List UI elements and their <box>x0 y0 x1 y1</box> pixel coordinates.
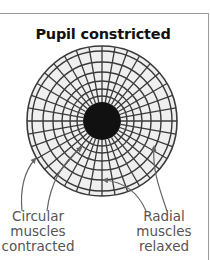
label-line: muscles <box>0 224 76 239</box>
pupil <box>83 102 121 140</box>
label-line: relaxed <box>128 239 200 254</box>
label-line: contracted <box>0 239 76 254</box>
label-line: muscles <box>128 224 200 239</box>
label-line: Circular <box>0 209 76 224</box>
label-radial-muscles: Radial muscles relaxed <box>128 209 200 254</box>
label-line: Radial <box>128 209 200 224</box>
arrow-circular-outer <box>22 159 35 211</box>
label-circular-muscles: Circular muscles contracted <box>0 209 76 254</box>
